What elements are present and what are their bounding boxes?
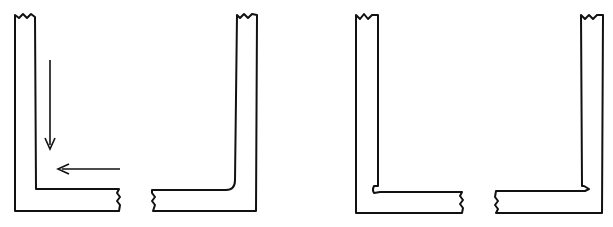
l-profile-outline xyxy=(356,14,463,213)
profile-lapped-corner xyxy=(495,15,603,213)
l-profile-outline xyxy=(495,15,603,213)
profile-sharp-corner xyxy=(15,14,120,211)
profile-rounded-corner xyxy=(152,14,257,211)
profile-notched-corner xyxy=(356,14,463,213)
diagram-canvas xyxy=(0,0,613,227)
l-profile-outline xyxy=(15,14,120,211)
l-profile-outline xyxy=(152,14,257,211)
